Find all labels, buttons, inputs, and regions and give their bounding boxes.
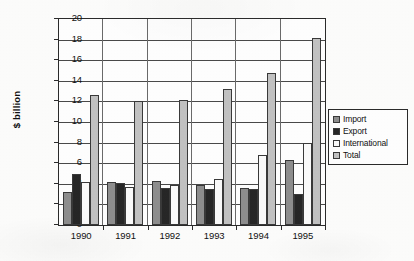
bar-international-1992 — [170, 185, 179, 225]
bar-total-1995 — [312, 38, 321, 225]
y-axis-tick — [54, 142, 58, 143]
x-axis-tick-label-1993: 1993 — [192, 230, 236, 246]
y-axis-tick — [54, 162, 58, 163]
legend-label-total: Total — [343, 150, 360, 160]
bar-international-1994 — [258, 155, 267, 225]
y-axis-tick — [54, 183, 58, 184]
bar-import-1995 — [285, 160, 294, 225]
legend-label-international: International — [343, 138, 388, 148]
bar-group-1995 — [281, 19, 325, 225]
x-axis-tick — [236, 226, 237, 230]
bar-export-1994 — [249, 189, 258, 225]
x-axis-tick — [281, 226, 282, 230]
legend-label-import: Import — [343, 114, 366, 124]
y-axis-tick — [54, 80, 58, 81]
y-axis-title: $ billion — [11, 68, 22, 152]
bar-total-1993 — [223, 89, 232, 225]
x-axis-tick — [192, 226, 193, 230]
bar-group-1992 — [148, 19, 192, 225]
legend-item-import: Import — [333, 113, 404, 125]
x-axis-tick — [103, 226, 104, 230]
bar-total-1991 — [134, 101, 143, 225]
bar-import-1994 — [240, 188, 249, 225]
bar-total-1990 — [90, 95, 99, 225]
bar-group-1990 — [59, 19, 103, 225]
bar-export-1991 — [116, 183, 125, 225]
y-axis-tick — [54, 121, 58, 122]
x-axis-tick-label-1995: 1995 — [281, 230, 325, 246]
bar-export-1995 — [294, 194, 303, 225]
legend-item-export: Export — [333, 125, 404, 137]
legend-item-international: International — [333, 137, 404, 149]
bar-group-1994 — [236, 19, 280, 225]
bar-import-1992 — [152, 181, 161, 225]
bar-export-1993 — [205, 189, 214, 225]
bar-chart: $ billion 199019911992199319941995 Impor… — [0, 0, 414, 261]
bar-groups — [59, 19, 325, 225]
legend-label-export: Export — [343, 126, 367, 136]
x-axis-tick-label-1990: 1990 — [59, 230, 103, 246]
legend-swatch-total — [333, 152, 340, 159]
bar-international-1991 — [125, 187, 134, 225]
x-axis-labels: 199019911992199319941995 — [59, 230, 325, 246]
x-axis-tick — [325, 226, 326, 230]
legend: Import Export International Total — [328, 109, 408, 165]
bar-group-1993 — [192, 19, 236, 225]
bar-international-1995 — [303, 143, 312, 225]
bar-export-1990 — [72, 174, 81, 226]
bar-total-1992 — [179, 100, 188, 225]
y-axis-tick — [54, 39, 58, 40]
bar-total-1994 — [267, 73, 276, 225]
x-axis-tick-label-1994: 1994 — [236, 230, 280, 246]
x-axis-tick-label-1991: 1991 — [103, 230, 147, 246]
x-axis-tick-label-1992: 1992 — [148, 230, 192, 246]
y-axis-tick — [54, 59, 58, 60]
legend-item-total: Total — [333, 149, 404, 161]
y-axis-tick — [54, 224, 58, 225]
bar-import-1990 — [63, 192, 72, 225]
bar-international-1993 — [214, 179, 223, 225]
bar-export-1992 — [161, 188, 170, 225]
x-axis-tick — [148, 226, 149, 230]
bar-import-1993 — [196, 185, 205, 225]
legend-swatch-import — [333, 116, 340, 123]
legend-swatch-international — [333, 140, 340, 147]
y-axis-tick — [54, 100, 58, 101]
y-axis-tick — [54, 203, 58, 204]
bar-group-1991 — [103, 19, 147, 225]
legend-swatch-export — [333, 128, 340, 135]
y-axis-tick — [54, 18, 58, 19]
bar-import-1991 — [107, 182, 116, 225]
bar-international-1990 — [81, 182, 90, 225]
